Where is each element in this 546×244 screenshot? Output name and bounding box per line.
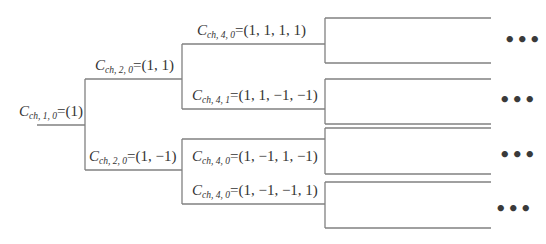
code-subscript: ch, 4, 0 (207, 30, 235, 40)
node-l2-top-label: Cch, 2, 0=(1, 1) (95, 58, 174, 76)
code-value: (1, −1, −1, 1) (238, 182, 317, 198)
continuation-ellipsis-icon: ••• (499, 146, 537, 164)
code-value: (1, 1) (141, 57, 174, 73)
code-symbol: C (19, 103, 29, 119)
code-value: (1, 1, −1, −1) (238, 87, 317, 103)
code-subscript: ch, 2, 0 (99, 156, 127, 166)
code-symbol: C (95, 57, 105, 73)
code-symbol: C (192, 182, 202, 198)
code-symbol: C (192, 87, 202, 103)
continuation-ellipsis-icon: ••• (499, 91, 537, 109)
continuation-ellipsis-icon: ••• (495, 200, 533, 218)
node-l4-3-label: Cch, 4, 0=(1, −1, −1, 1) (192, 183, 318, 201)
node-l4-1-label: Cch, 4, 1=(1, 1, −1, −1) (192, 88, 318, 106)
node-l2-bottom-label: Cch, 2, 0=(1, −1) (89, 149, 176, 167)
node-l4-2-label: Cch, 4, 0=(1, −1, 1, −1) (192, 149, 318, 167)
continuation-ellipsis-icon: ••• (504, 31, 542, 49)
code-subscript: ch, 4, 1 (202, 95, 230, 105)
code-subscript: ch, 1, 0 (29, 111, 57, 121)
code-symbol: C (197, 22, 207, 38)
code-symbol: C (89, 148, 99, 164)
code-subscript: ch, 4, 0 (202, 156, 230, 166)
code-value: (1, 1, 1, 1) (243, 22, 306, 38)
node-root-label: Cch, 1, 0=(1) (19, 104, 83, 122)
code-symbol: C (192, 148, 202, 164)
code-subscript: ch, 2, 0 (105, 65, 133, 75)
code-subscript: ch, 4, 0 (202, 190, 230, 200)
code-value: (1, −1, 1, −1) (238, 148, 317, 164)
node-l4-0-label: Cch, 4, 0=(1, 1, 1, 1) (197, 23, 306, 41)
code-value: (1) (65, 103, 83, 119)
code-value: (1, −1) (135, 148, 176, 164)
